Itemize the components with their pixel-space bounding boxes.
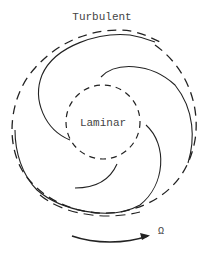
turbulent-band (40, 195, 140, 216)
omega-label: Ω (158, 226, 164, 237)
spiral-arm-inner (75, 164, 117, 188)
turbulent-label: Turbulent (72, 11, 131, 23)
spiral-arm-2 (101, 67, 192, 163)
rotation-arrow (72, 236, 148, 242)
laminar-label: Laminar (80, 117, 126, 129)
disk-flow-diagram: Turbulent Laminar Ω (0, 0, 209, 254)
spiral-arm-3 (15, 125, 161, 213)
arrowhead-icon (140, 233, 150, 240)
